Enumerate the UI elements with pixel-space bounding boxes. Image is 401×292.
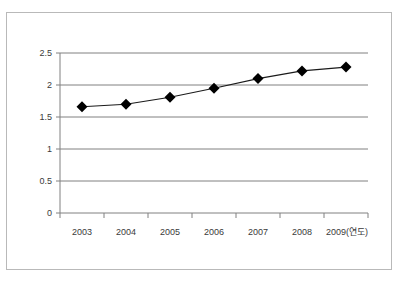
gridlines bbox=[60, 53, 368, 213]
y-tick-label-2: 2 bbox=[18, 81, 52, 90]
x-tick-label-2007: 2007 bbox=[236, 228, 280, 237]
y-axis-ticks bbox=[56, 53, 60, 213]
y-tick-label-2-5: 2.5 bbox=[18, 49, 52, 58]
line-chart bbox=[0, 0, 401, 292]
data-point-2006 bbox=[209, 83, 220, 94]
data-point-2009 bbox=[341, 62, 352, 73]
data-point-2003 bbox=[77, 101, 88, 112]
data-point-2007 bbox=[253, 73, 264, 84]
data-point-2005 bbox=[165, 92, 176, 103]
x-axis-ticks bbox=[60, 213, 368, 218]
y-tick-label-0: 0 bbox=[18, 209, 52, 218]
y-tick-label-0-5: 0.5 bbox=[18, 177, 52, 186]
data-point-2004 bbox=[121, 99, 132, 110]
y-tick-label-1-5: 1.5 bbox=[18, 113, 52, 122]
x-tick-label-2003: 2003 bbox=[60, 228, 104, 237]
x-tick-label-2009: 2009(연도) bbox=[318, 228, 376, 237]
figure-container: 0 0.5 1 1.5 2 2.5 2003 2004 2005 2006 20… bbox=[0, 0, 401, 292]
y-tick-label-1: 1 bbox=[18, 145, 52, 154]
x-tick-label-2006: 2006 bbox=[192, 228, 236, 237]
data-point-2008 bbox=[297, 65, 308, 76]
x-tick-label-2005: 2005 bbox=[148, 228, 192, 237]
x-tick-label-2004: 2004 bbox=[104, 228, 148, 237]
